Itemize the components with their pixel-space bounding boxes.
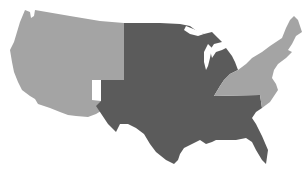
us-region-map	[0, 0, 306, 192]
